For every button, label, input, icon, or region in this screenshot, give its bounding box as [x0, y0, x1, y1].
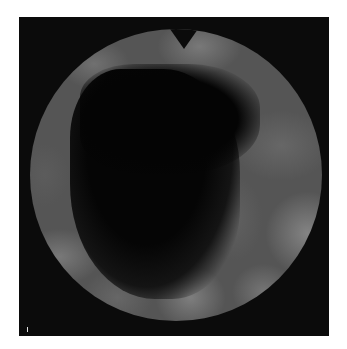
dark-lumen-upper-region: [80, 64, 260, 174]
corner-tick-mark: [27, 327, 28, 332]
image-frame: [19, 17, 329, 336]
orientation-notch-icon: [170, 29, 198, 49]
endoscope-circular-view: [30, 29, 322, 321]
